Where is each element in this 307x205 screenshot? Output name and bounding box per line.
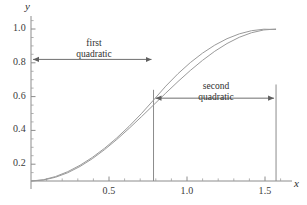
x-axis-major-ticks bbox=[109, 177, 265, 182]
y-tick-label-0_8: 0.8 bbox=[2, 56, 26, 67]
second-quadratic-annotation: second quadratic bbox=[170, 81, 262, 102]
first-quadratic-curve bbox=[31, 100, 154, 181]
x-tick-label-1_0: 1.0 bbox=[174, 185, 200, 196]
y-axis-label: y bbox=[25, 0, 30, 12]
x-tick-label-1_5: 1.5 bbox=[252, 185, 278, 196]
y-tick-label-1_0: 1.0 bbox=[2, 22, 26, 33]
y-axis bbox=[31, 16, 36, 189]
second-quadratic-annotation-line2: quadratic bbox=[170, 92, 262, 103]
x-axis-label: x bbox=[294, 177, 299, 189]
first-quadratic-annotation: first quadratic bbox=[48, 38, 140, 59]
y-axis-major-ticks bbox=[31, 29, 36, 164]
y-tick-label-0_2: 0.2 bbox=[2, 157, 26, 168]
first-quadratic-annotation-line1: first bbox=[48, 38, 140, 49]
x-axis bbox=[31, 177, 292, 182]
sine-quadratic-approximation-figure: 1.0 0.8 0.6 0.4 0.2 0.5 1.0 1.5 y x firs… bbox=[0, 0, 307, 205]
y-tick-label-0_4: 0.4 bbox=[2, 123, 26, 134]
y-tick-label-0_6: 0.6 bbox=[2, 90, 26, 101]
x-tick-label-0_5: 0.5 bbox=[96, 185, 122, 196]
second-quadratic-annotation-line1: second bbox=[170, 81, 262, 92]
plot-canvas bbox=[0, 0, 307, 205]
first-quadratic-annotation-line2: quadratic bbox=[48, 49, 140, 60]
